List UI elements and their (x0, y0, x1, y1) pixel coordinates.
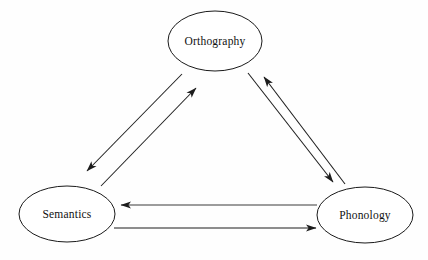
edge-orthography-to-semantics (87, 74, 182, 171)
phonology-label: Phonology (339, 209, 391, 222)
node-orthography[interactable]: Orthography (168, 11, 262, 71)
triangle-model-diagram: Orthography Semantics Phonology (0, 0, 428, 260)
diagram-canvas: Orthography Semantics Phonology (0, 0, 428, 260)
edges-group (87, 73, 345, 228)
edge-phonology-to-orthography (264, 77, 345, 184)
edge-orthography-to-phonology (248, 73, 333, 182)
node-phonology[interactable]: Phonology (317, 187, 413, 243)
edge-semantics-to-orthography (101, 88, 196, 186)
orthography-label: Orthography (185, 35, 246, 48)
node-semantics[interactable]: Semantics (19, 186, 115, 242)
semantics-label: Semantics (42, 208, 91, 220)
